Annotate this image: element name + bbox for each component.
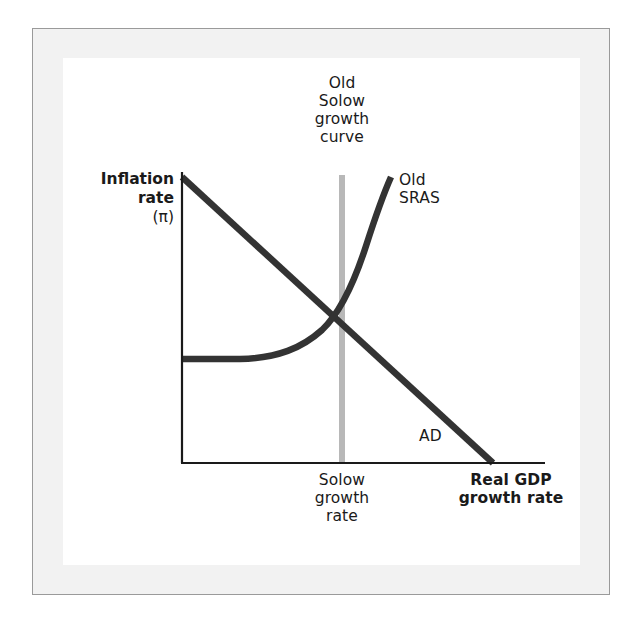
solow-growth-rate-tick-label: Solow growth rate: [288, 472, 396, 526]
solow-growth-curve-label: Old Solow growth curve: [281, 75, 403, 147]
x-axis-label: Real GDP growth rate: [425, 472, 597, 508]
y-axis-label: Inflation rate (π): [78, 170, 174, 227]
ad-curve-label: AD: [419, 428, 469, 446]
y-axis-label-main: Inflation rate: [78, 170, 174, 208]
y-axis-label-symbol: (π): [78, 208, 174, 227]
sras-curve-label: Old SRAS: [399, 172, 499, 208]
ad-curve: [182, 177, 493, 463]
figure-root: Inflation rate (π) Old Solow growth curv…: [0, 0, 643, 626]
